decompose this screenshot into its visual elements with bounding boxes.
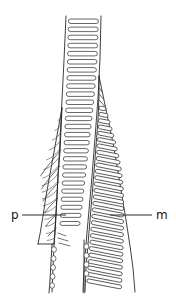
label-m: m xyxy=(156,208,168,222)
label-p: p xyxy=(11,208,19,222)
line-drawing-svg: p m xyxy=(0,0,176,306)
node-bump xyxy=(52,247,57,253)
basal-stems-group xyxy=(49,233,89,293)
main-stem-loops xyxy=(60,19,98,225)
junction-ticks xyxy=(58,233,70,246)
left-basal-nodes xyxy=(50,247,57,289)
node-bump xyxy=(51,265,56,271)
node-bump xyxy=(51,256,56,262)
figure-root: p m xyxy=(0,0,176,306)
node-bump xyxy=(84,262,89,268)
node-bump xyxy=(84,244,89,250)
node-bump xyxy=(50,274,55,280)
node-bump xyxy=(84,271,89,277)
node-bump xyxy=(50,283,55,289)
annotation-p[interactable]: p xyxy=(11,208,66,222)
node-bump xyxy=(84,253,89,259)
